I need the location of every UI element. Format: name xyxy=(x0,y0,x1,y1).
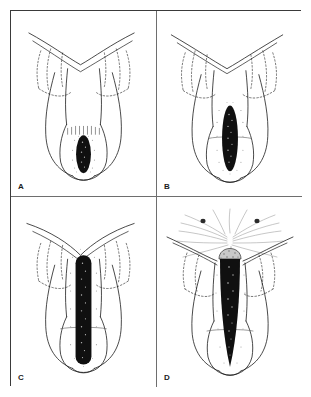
panel-a-illustration xyxy=(11,11,156,196)
panel-c-label: C xyxy=(18,374,24,382)
panel-b-illustration xyxy=(157,11,302,196)
panel-c-illustration xyxy=(11,197,156,387)
lesion-a xyxy=(76,135,91,173)
panel-d-illustration xyxy=(157,197,302,387)
figure-frame: A xyxy=(10,10,301,386)
panel-c: C xyxy=(11,197,157,387)
panel-a: A xyxy=(11,11,157,197)
panel-b: B xyxy=(157,11,302,197)
panel-a-label: A xyxy=(18,183,24,191)
lesion-b xyxy=(222,105,238,171)
dark-spots-d xyxy=(200,219,259,223)
panel-b-label: B xyxy=(164,183,170,191)
lesion-d xyxy=(220,259,240,367)
lesion-c xyxy=(76,255,92,364)
panel-d: D xyxy=(157,197,302,387)
panel-d-label: D xyxy=(164,374,170,382)
